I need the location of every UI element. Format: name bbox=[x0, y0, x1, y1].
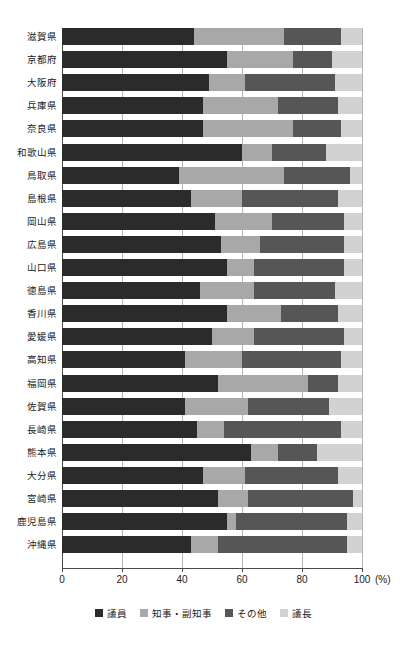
bar-segment bbox=[251, 444, 278, 461]
bar-segment bbox=[335, 282, 362, 299]
bar-segment bbox=[179, 167, 284, 184]
bar-segment bbox=[338, 97, 362, 114]
bar-segment bbox=[209, 74, 245, 91]
x-tick-mark bbox=[362, 568, 363, 572]
legend-swatch-icon bbox=[95, 609, 103, 617]
category-label: 岡山県 bbox=[0, 213, 57, 230]
bar-segment bbox=[338, 467, 362, 484]
category-label: 香川県 bbox=[0, 305, 57, 322]
x-axis-line bbox=[62, 568, 363, 569]
x-tick-label: 80 bbox=[296, 574, 307, 585]
bar-segment bbox=[278, 97, 338, 114]
x-axis-unit-label: (%) bbox=[375, 574, 391, 585]
x-tick-mark bbox=[242, 568, 243, 572]
bar-segment bbox=[248, 398, 329, 415]
bar-segment bbox=[62, 375, 218, 392]
bar-segment bbox=[254, 259, 344, 276]
bar-segment bbox=[62, 51, 227, 68]
bar-segment bbox=[227, 51, 293, 68]
category-label: 徳島県 bbox=[0, 282, 57, 299]
gridline-100 bbox=[362, 28, 363, 568]
bar-segment bbox=[218, 490, 248, 507]
bar-segment bbox=[62, 167, 179, 184]
category-label: 奈良県 bbox=[0, 120, 57, 137]
bar-segment bbox=[62, 305, 227, 322]
x-tick-mark bbox=[122, 568, 123, 572]
category-label: 愛媛県 bbox=[0, 328, 57, 345]
bar-segment bbox=[215, 213, 272, 230]
bar-segment bbox=[62, 536, 191, 553]
bar-segment bbox=[338, 305, 362, 322]
bar-segment bbox=[350, 167, 362, 184]
bar-segment bbox=[293, 51, 332, 68]
category-label: 沖縄県 bbox=[0, 536, 57, 553]
bar-segment bbox=[347, 513, 362, 530]
bar-row bbox=[62, 236, 362, 253]
legend-item: 知事・副知事 bbox=[140, 606, 212, 620]
bar-segment bbox=[341, 120, 362, 137]
category-label: 大分県 bbox=[0, 467, 57, 484]
bar-row bbox=[62, 213, 362, 230]
category-label: 熊本県 bbox=[0, 444, 57, 461]
bar-segment bbox=[248, 490, 353, 507]
bar-segment bbox=[185, 398, 248, 415]
x-tick-label: 0 bbox=[59, 574, 65, 585]
bar-segment bbox=[245, 467, 338, 484]
bar-segment bbox=[281, 305, 338, 322]
bar-segment bbox=[62, 97, 203, 114]
bar-segment bbox=[185, 351, 242, 368]
bar-segment bbox=[203, 120, 293, 137]
bar-segment bbox=[329, 398, 362, 415]
bar-segment bbox=[254, 328, 344, 345]
category-label: 鹿児島県 bbox=[0, 513, 57, 530]
bar-row bbox=[62, 328, 362, 345]
bar-segment bbox=[308, 375, 338, 392]
x-tick-label: 20 bbox=[116, 574, 127, 585]
bar-segment bbox=[260, 236, 344, 253]
bar-segment bbox=[218, 375, 308, 392]
x-tick-mark bbox=[62, 568, 63, 572]
category-label: 高知県 bbox=[0, 351, 57, 368]
bar-segment bbox=[284, 28, 341, 45]
category-label: 和歌山県 bbox=[0, 144, 57, 161]
category-label: 宮崎県 bbox=[0, 490, 57, 507]
x-tick-label: 60 bbox=[236, 574, 247, 585]
bar-row bbox=[62, 167, 362, 184]
bar-row bbox=[62, 444, 362, 461]
category-label: 兵庫県 bbox=[0, 97, 57, 114]
bar-segment bbox=[338, 375, 362, 392]
bar-segment bbox=[62, 282, 200, 299]
bar-segment bbox=[293, 120, 341, 137]
bar-segment bbox=[62, 144, 242, 161]
bar-row bbox=[62, 74, 362, 91]
bar-segment bbox=[338, 190, 362, 207]
bar-segment bbox=[203, 97, 278, 114]
legend-swatch-icon bbox=[280, 609, 288, 617]
bar-segment bbox=[62, 74, 209, 91]
legend-label: 知事・副知事 bbox=[152, 606, 212, 620]
legend-item: 議員 bbox=[95, 606, 127, 620]
bar-row bbox=[62, 144, 362, 161]
bar-row bbox=[62, 513, 362, 530]
bar-row bbox=[62, 536, 362, 553]
legend-swatch-icon bbox=[140, 609, 148, 617]
bar-row bbox=[62, 467, 362, 484]
bar-row bbox=[62, 259, 362, 276]
bar-row bbox=[62, 282, 362, 299]
bar-segment bbox=[344, 213, 362, 230]
bar-segment bbox=[62, 398, 185, 415]
bar-segment bbox=[200, 282, 254, 299]
category-label: 滋賀県 bbox=[0, 28, 57, 45]
bar-segment bbox=[62, 467, 203, 484]
chart-legend: 議員知事・副知事その他議長 bbox=[0, 606, 406, 620]
category-label: 佐賀県 bbox=[0, 398, 57, 415]
bar-segment bbox=[62, 236, 221, 253]
bar-segment bbox=[317, 444, 362, 461]
bar-segment bbox=[254, 282, 335, 299]
plot-area bbox=[62, 28, 362, 568]
category-label: 京都府 bbox=[0, 51, 57, 68]
bar-segment bbox=[62, 120, 203, 137]
bar-segment bbox=[212, 328, 254, 345]
bar-segment bbox=[62, 490, 218, 507]
x-tick-label: 40 bbox=[176, 574, 187, 585]
